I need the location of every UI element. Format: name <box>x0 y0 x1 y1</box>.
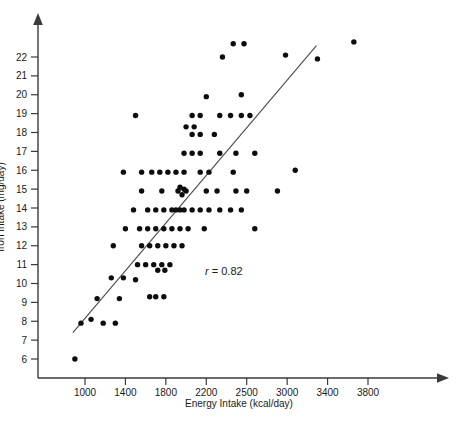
data-point <box>189 207 194 212</box>
data-point <box>239 92 244 97</box>
data-point <box>147 294 152 299</box>
y-tick-label: 9 <box>21 297 27 308</box>
data-points-group <box>72 39 356 362</box>
data-point <box>131 207 136 212</box>
data-point <box>155 243 160 248</box>
data-point <box>198 169 203 174</box>
data-point <box>153 207 158 212</box>
data-point <box>145 226 150 231</box>
correlation-annotation: r = 0.82 <box>205 265 243 277</box>
correlation-value: 0.82 <box>221 265 242 277</box>
data-point <box>231 41 236 46</box>
data-point <box>206 207 211 212</box>
data-point <box>149 169 154 174</box>
x-tick-label: 2500 <box>236 387 259 398</box>
chart-page: 678910111213141516171819202122 100014001… <box>0 0 459 428</box>
data-point <box>191 124 196 129</box>
data-point <box>139 243 144 248</box>
data-point <box>233 151 238 156</box>
regression-line <box>73 46 317 333</box>
x-tick-label: 3800 <box>357 387 380 398</box>
data-point <box>228 113 233 118</box>
data-point <box>214 188 219 193</box>
data-point <box>113 320 118 325</box>
data-point <box>147 243 152 248</box>
data-point <box>252 226 257 231</box>
data-point <box>169 226 174 231</box>
y-tick-label: 11 <box>17 259 28 270</box>
x-tick-label: 3400 <box>316 387 339 398</box>
x-tick-label: 2200 <box>195 387 218 398</box>
y-tick-label: 15 <box>16 184 28 195</box>
data-point <box>228 207 233 212</box>
data-point <box>204 188 209 193</box>
scatter-plot: 678910111213141516171819202122 100014001… <box>0 0 459 428</box>
x-axis-title: Energy Intake (kcal/day) <box>185 398 293 409</box>
data-point <box>161 294 166 299</box>
data-point <box>143 262 148 267</box>
data-point <box>88 317 93 322</box>
y-axis-title: Iron Intake (mg/day) <box>0 162 6 251</box>
data-point <box>121 169 126 174</box>
data-point <box>179 243 184 248</box>
data-point <box>157 169 162 174</box>
y-tick-label: 6 <box>21 354 27 365</box>
y-axis-arrow-icon <box>33 13 43 25</box>
y-tick-label: 17 <box>16 146 28 157</box>
x-tick-label: 1400 <box>114 387 137 398</box>
data-point <box>151 262 156 267</box>
data-point <box>179 192 184 197</box>
data-point <box>220 54 225 59</box>
y-tick-label: 21 <box>16 70 28 81</box>
y-tick-label: 14 <box>16 203 28 214</box>
data-point <box>217 113 222 118</box>
data-point <box>239 113 244 118</box>
data-point <box>165 169 170 174</box>
data-point <box>252 151 257 156</box>
data-point <box>212 132 217 137</box>
data-point <box>163 243 168 248</box>
data-point <box>78 320 83 325</box>
x-tick-label: 3000 <box>276 387 299 398</box>
y-tick-label: 19 <box>16 108 28 119</box>
y-tick-label: 10 <box>16 278 28 289</box>
data-point <box>283 52 288 57</box>
data-point <box>198 151 203 156</box>
x-tick-label: 1800 <box>155 387 178 398</box>
data-point <box>231 169 236 174</box>
y-tick-label: 16 <box>16 165 28 176</box>
data-point <box>171 243 176 248</box>
data-point <box>217 207 222 212</box>
data-point <box>153 226 158 231</box>
data-point <box>139 169 144 174</box>
data-point <box>100 320 105 325</box>
data-point <box>123 226 128 231</box>
x-tick-label: 1000 <box>74 387 97 398</box>
data-point <box>162 268 167 273</box>
data-point <box>121 275 126 280</box>
data-point <box>185 226 190 231</box>
data-point <box>204 94 209 99</box>
data-point <box>198 207 203 212</box>
y-tick-label: 13 <box>16 221 28 232</box>
data-point <box>189 151 194 156</box>
x-axis-arrow-icon <box>437 373 449 383</box>
y-tick-label: 7 <box>21 335 27 346</box>
data-point <box>137 226 142 231</box>
data-point <box>315 56 320 61</box>
data-point <box>241 41 246 46</box>
data-point <box>181 151 186 156</box>
data-point <box>72 356 77 361</box>
correlation-relation: = <box>209 265 222 277</box>
data-point <box>181 207 186 212</box>
data-point <box>198 132 203 137</box>
data-point <box>111 243 116 248</box>
y-tick-label: 20 <box>16 89 28 100</box>
data-point <box>145 207 150 212</box>
data-point <box>206 169 211 174</box>
data-point <box>161 207 166 212</box>
data-point <box>244 188 249 193</box>
data-point <box>275 188 280 193</box>
data-point <box>351 39 356 44</box>
data-point <box>159 188 164 193</box>
